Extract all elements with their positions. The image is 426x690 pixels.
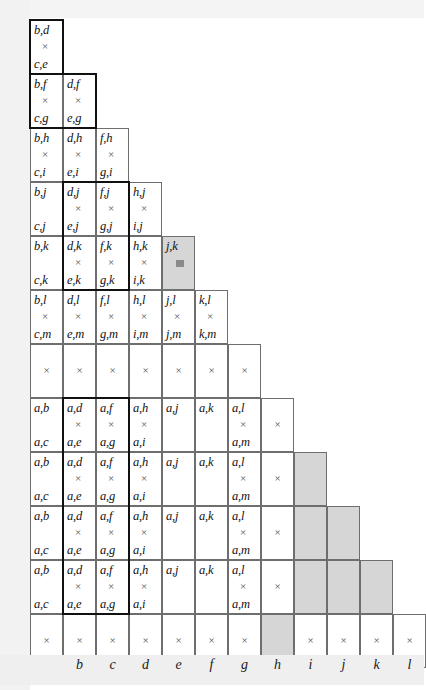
- grid-cell[interactable]: ×: [261, 398, 294, 452]
- cell-numerator: a,l: [232, 563, 244, 578]
- grid-cell[interactable]: h,li,m×: [129, 290, 162, 344]
- axis-label-j: j: [327, 657, 360, 673]
- grid-cell[interactable]: ×: [63, 344, 96, 398]
- grid-cell[interactable]: a,la,m×: [228, 506, 261, 560]
- cell-operator-icon: ×: [262, 580, 293, 592]
- cell-denominator: i,k: [133, 273, 145, 288]
- grid-cell[interactable]: a,k: [195, 452, 228, 506]
- grid-cell[interactable]: j,k: [162, 236, 195, 290]
- grid-cell[interactable]: a,ha,i×: [129, 506, 162, 560]
- grid-cell[interactable]: ×: [261, 560, 294, 614]
- grid-cell[interactable]: a,k: [195, 398, 228, 452]
- grid-cell[interactable]: b,kc,k: [30, 236, 63, 290]
- grid-cell[interactable]: ×: [195, 344, 228, 398]
- axis-label-strip: bcdefghijkl: [0, 655, 424, 685]
- grid-cell[interactable]: j,lj,m×: [162, 290, 195, 344]
- grid-cell[interactable]: ×: [261, 452, 294, 506]
- grid-cell[interactable]: a,da,e×: [63, 560, 96, 614]
- grid-cell[interactable]: a,ha,i×: [129, 452, 162, 506]
- cell-numerator: a,h: [133, 509, 148, 524]
- grid-cell[interactable]: a,ha,i×: [129, 398, 162, 452]
- grid-cell[interactable]: a,j: [162, 506, 195, 560]
- cell-numerator: a,b: [34, 563, 49, 578]
- grid-cell[interactable]: [294, 452, 327, 506]
- grid-cell[interactable]: f,lg,m×: [96, 290, 129, 344]
- cell-operator-icon: ×: [75, 148, 95, 160]
- grid-cell[interactable]: a,fa,g×: [96, 398, 129, 452]
- grid-cell[interactable]: ×: [96, 344, 129, 398]
- cell-operator-icon: ×: [108, 310, 128, 322]
- grid-cell[interactable]: a,j: [162, 398, 195, 452]
- cell-denominator: c,k: [34, 273, 48, 288]
- grid-cell[interactable]: ×: [162, 344, 195, 398]
- cell-numerator: d,l: [67, 293, 79, 308]
- cell-operator-icon: ×: [130, 364, 161, 376]
- axis-label-f: f: [195, 657, 228, 673]
- grid-cell[interactable]: a,ba,c: [30, 398, 63, 452]
- cell-operator-icon: ×: [295, 634, 326, 646]
- grid-cell[interactable]: a,j: [162, 452, 195, 506]
- grid-cell[interactable]: d,fe,g×: [63, 74, 96, 128]
- grid-cell[interactable]: a,fa,g×: [96, 560, 129, 614]
- cell-denominator: a,i: [133, 435, 145, 450]
- cell-operator-icon: ×: [262, 472, 293, 484]
- cell-denominator: a,c: [34, 543, 48, 558]
- grid-cell[interactable]: a,ba,c: [30, 560, 63, 614]
- cell-numerator: d,h: [67, 131, 82, 146]
- grid-cell[interactable]: d,le,m×: [63, 290, 96, 344]
- grid-cell[interactable]: a,da,e×: [63, 398, 96, 452]
- grid-cell[interactable]: a,la,m×: [228, 560, 261, 614]
- grid-cell[interactable]: [294, 560, 327, 614]
- grid-cell[interactable]: a,da,e×: [63, 452, 96, 506]
- cell-operator-icon: ×: [108, 202, 128, 214]
- grid-cell[interactable]: a,ba,c: [30, 506, 63, 560]
- grid-cell[interactable]: f,kg,k×: [96, 236, 129, 290]
- grid-cell[interactable]: h,ki,k×: [129, 236, 162, 290]
- cell-numerator: a,f: [100, 455, 112, 470]
- grid-cell[interactable]: a,ha,i×: [129, 560, 162, 614]
- grid-cell[interactable]: f,hg,i×: [96, 128, 129, 182]
- cell-denominator: a,g: [100, 435, 115, 450]
- grid-cell[interactable]: [327, 506, 360, 560]
- grid-cell[interactable]: d,je,j×: [63, 182, 96, 236]
- grid-cell[interactable]: a,la,m×: [228, 452, 261, 506]
- grid-cell[interactable]: ×: [30, 344, 63, 398]
- grid-cell[interactable]: a,k: [195, 506, 228, 560]
- grid-cell[interactable]: a,j: [162, 560, 195, 614]
- grid-cell[interactable]: a,ba,c: [30, 452, 63, 506]
- grid-cell[interactable]: ×: [261, 506, 294, 560]
- grid-cell[interactable]: k,lk,m×: [195, 290, 228, 344]
- grid-cell[interactable]: b,hc,i×: [30, 128, 63, 182]
- cell-numerator: f,k: [100, 239, 112, 254]
- grid-cell[interactable]: d,ke,k×: [63, 236, 96, 290]
- cell-numerator: f,l: [100, 293, 109, 308]
- grid-cell[interactable]: b,dc,e×: [30, 20, 63, 74]
- grid-cell[interactable]: [294, 506, 327, 560]
- grid-cell[interactable]: [327, 560, 360, 614]
- grid-cell[interactable]: f,jg,j×: [96, 182, 129, 236]
- grid-cell[interactable]: [360, 560, 393, 614]
- grid-cell[interactable]: a,fa,g×: [96, 506, 129, 560]
- cell-operator-icon: ×: [42, 310, 62, 322]
- cell-numerator: a,d: [67, 455, 82, 470]
- grid-cell[interactable]: h,ji,j×: [129, 182, 162, 236]
- cell-operator-icon: ×: [108, 526, 128, 538]
- grid-cell[interactable]: ×: [129, 344, 162, 398]
- grid-cell[interactable]: b,jc,j: [30, 182, 63, 236]
- grid-cell[interactable]: a,fa,g×: [96, 452, 129, 506]
- cell-denominator: a,e: [67, 543, 81, 558]
- cell-numerator: f,j: [100, 185, 109, 200]
- cell-denominator: k,m: [199, 327, 216, 342]
- cell-numerator: a,d: [67, 509, 82, 524]
- grid-cell[interactable]: b,lc,m×: [30, 290, 63, 344]
- grid-cell[interactable]: a,k: [195, 560, 228, 614]
- grid-cell[interactable]: ×: [228, 344, 261, 398]
- grid-cell[interactable]: a,la,m×: [228, 398, 261, 452]
- cell-denominator: g,m: [100, 327, 118, 342]
- cell-denominator: j,m: [166, 327, 181, 342]
- grid-cell[interactable]: b,fc,g×: [30, 74, 63, 128]
- cell-denominator: a,m: [232, 489, 250, 504]
- grid-cell[interactable]: d,he,i×: [63, 128, 96, 182]
- grid-cell[interactable]: a,da,e×: [63, 506, 96, 560]
